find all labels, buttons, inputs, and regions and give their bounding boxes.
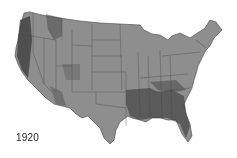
us-outline xyxy=(15,12,222,144)
year-label: 1920 xyxy=(16,132,39,143)
